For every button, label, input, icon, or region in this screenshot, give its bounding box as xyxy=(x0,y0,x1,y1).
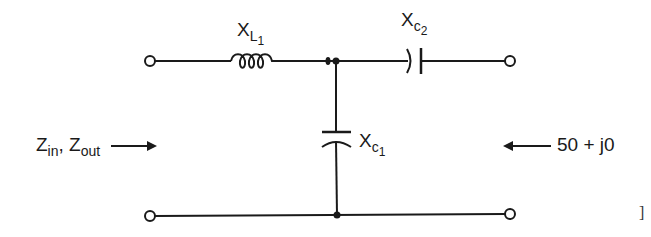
separator: , xyxy=(59,134,64,155)
series-capacitor-label-sub: c xyxy=(414,18,421,34)
bottom-left-terminal xyxy=(145,211,155,221)
zout-main: Z xyxy=(69,134,81,155)
margin-bracket-mark: ] xyxy=(639,204,644,222)
series-capacitor-label-main: X xyxy=(401,9,414,30)
inductor-label-subsub: 1 xyxy=(257,34,264,48)
shunt-capacitor-label-main: X xyxy=(359,130,372,151)
bottom-wire xyxy=(155,214,505,216)
shunt-capacitor-label-subsub: 1 xyxy=(379,145,386,159)
top-right-terminal xyxy=(505,56,515,66)
top-left-terminal xyxy=(145,56,155,66)
zin-main: Z xyxy=(36,134,48,155)
left-port-impedance-label: Zin, Zout xyxy=(36,135,155,154)
shunt-capacitor-label-sub: c xyxy=(372,139,379,155)
bottom-junction-dot xyxy=(334,212,341,219)
shunt-capacitor-label: Xc1 xyxy=(359,131,385,152)
shunt-wire-lower xyxy=(336,141,337,215)
series-capacitor-label: Xc2 xyxy=(401,10,427,31)
load-impedance-value: 50 + j0 xyxy=(557,134,615,155)
right-port-impedance-label: 50 + j0 xyxy=(505,135,615,154)
inductor-label: XL1 xyxy=(237,20,264,41)
zout-sub: out xyxy=(81,143,100,159)
inductor-coil xyxy=(231,54,278,68)
arrow-left-icon xyxy=(505,145,551,147)
arrow-right-icon xyxy=(111,145,155,147)
inductor-label-main: X xyxy=(237,19,250,40)
top-junction-tick xyxy=(326,57,331,65)
zin-sub: in xyxy=(48,143,59,159)
series-capacitor-label-subsub: 2 xyxy=(421,24,428,38)
bottom-right-terminal xyxy=(505,209,515,219)
circuit-schematic xyxy=(0,0,651,237)
top-junction-dot xyxy=(333,58,340,65)
